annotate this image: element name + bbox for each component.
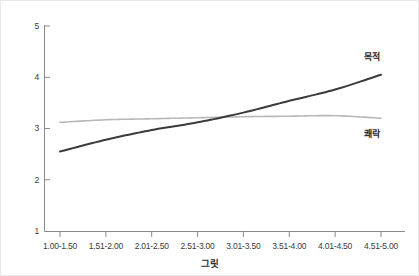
chart-figure: 5 4 3 2 1 1.00-1.50 1.51-2.00 2.01-2.50 …	[0, 0, 419, 276]
x-tick-label-7: 4.01-4.50	[311, 241, 359, 251]
y-tick-label-1: 1	[23, 226, 39, 236]
x-tick-label-4: 2.51-3.00	[174, 241, 222, 251]
x-tick-label-5: 3.01-3.50	[219, 241, 267, 251]
series-label-pleasure: 쾌락	[364, 127, 380, 140]
x-tick-label-6: 3.51-4.00	[265, 241, 313, 251]
y-tick-label-4: 4	[23, 72, 39, 82]
y-tick-label-5: 5	[23, 21, 39, 31]
x-tick-label-2: 1.51-2.00	[82, 241, 130, 251]
x-axis-ticks	[60, 232, 381, 238]
line-chart-plot	[1, 1, 419, 276]
y-axis-ticks	[45, 26, 51, 180]
series-label-purpose: 목적	[364, 50, 380, 63]
y-tick-label-3: 3	[23, 123, 39, 133]
x-tick-label-1: 1.00-1.50	[36, 241, 84, 251]
x-tick-label-3: 2.01-2.50	[128, 241, 176, 251]
series-line-purpose	[60, 75, 381, 152]
y-tick-label-2: 2	[23, 175, 39, 185]
x-tick-label-8: 4.51-5.00	[357, 241, 405, 251]
x-axis-title: 그릿	[1, 256, 419, 270]
series-line-pleasure	[60, 116, 381, 123]
